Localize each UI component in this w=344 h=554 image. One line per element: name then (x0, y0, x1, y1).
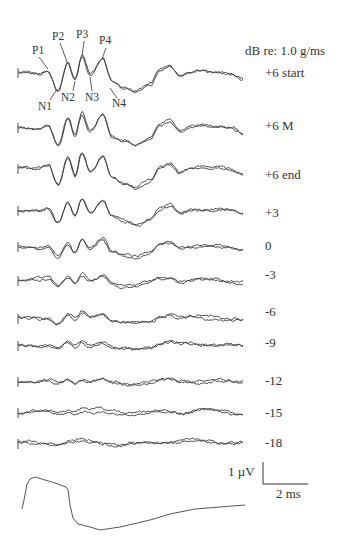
level-label: -18 (265, 436, 282, 450)
peak-label-p3: P3 (76, 28, 88, 40)
peak-label-n2: N2 (61, 91, 75, 103)
scale-bar-time-label: 2 ms (276, 487, 301, 501)
waveform-trace (18, 114, 243, 146)
level-label: -15 (265, 406, 282, 420)
level-label: -3 (265, 268, 276, 282)
level-label: +3 (265, 206, 279, 220)
waveform-trace (18, 438, 243, 446)
waveform-traces (18, 55, 243, 449)
peak-label-n4: N4 (112, 97, 126, 109)
level-label: +6 start (265, 66, 304, 80)
waveform-figure (0, 0, 344, 554)
level-label: -9 (265, 336, 276, 350)
waveform-trace (18, 55, 243, 93)
waveform-trace (18, 111, 243, 146)
scale-bar (263, 462, 308, 484)
peak-label-p2: P2 (52, 30, 64, 42)
waveform-trace (18, 57, 243, 92)
level-label: -12 (265, 374, 282, 388)
waveform-trace (18, 154, 243, 188)
level-label: +6 M (265, 119, 294, 133)
level-label: -6 (265, 305, 276, 319)
stimulus-waveform (22, 477, 245, 530)
waveform-trace (18, 275, 243, 289)
waveform-trace (18, 238, 243, 257)
peak-label-p4: P4 (99, 34, 111, 46)
level-label: +6 end (265, 168, 301, 182)
peak-label-p1: P1 (32, 44, 44, 56)
peak-label-n3: N3 (85, 91, 99, 103)
level-label: 0 (265, 239, 272, 253)
waveform-trace (18, 199, 243, 227)
peak-label-n1: N1 (38, 100, 52, 112)
waveform-trace (18, 313, 243, 325)
scale-bar-voltage-label: 1 µV (228, 465, 255, 479)
units-label: dB re: 1.0 g/ms (245, 44, 325, 58)
